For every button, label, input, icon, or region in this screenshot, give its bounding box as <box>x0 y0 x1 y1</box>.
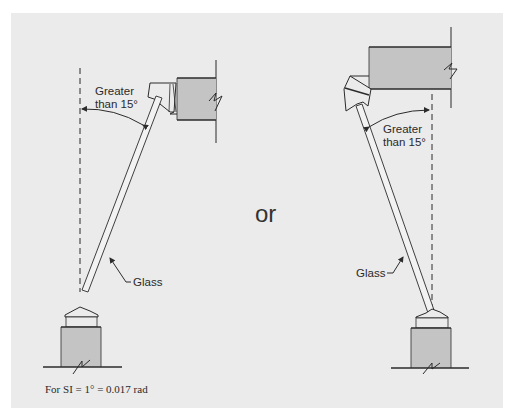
left-sill-block <box>61 327 101 367</box>
right-head-block <box>369 47 451 89</box>
sloped-glazing-diagram: Greater than 15° Glass or <box>0 0 511 414</box>
or-separator: or <box>255 200 276 227</box>
right-sill-block <box>411 328 451 368</box>
units-footnote: For SI = 1° = 0.017 rad <box>45 383 148 395</box>
left-glass-label: Glass <box>133 276 163 288</box>
right-angle-label-line2: than 15° <box>383 136 426 148</box>
right-angle-label-line1: Greater <box>383 123 422 135</box>
left-angle-label-line2: than 15° <box>95 98 138 110</box>
left-angle-label-line1: Greater <box>95 85 134 97</box>
right-glass-label: Glass <box>356 267 386 279</box>
